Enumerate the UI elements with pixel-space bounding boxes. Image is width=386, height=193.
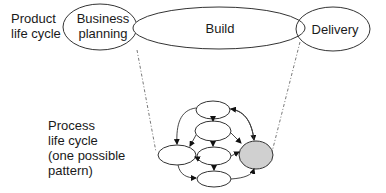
phase-label-line: Delivery [303, 22, 367, 37]
arrow-middle-to-highlighted [231, 133, 241, 143]
process-node-highlighted [239, 141, 273, 169]
delivery-label: Delivery [303, 22, 367, 37]
process-node-lower [197, 147, 231, 165]
arrow-highlighted-to-top [231, 109, 254, 140]
dashed-connector-left [137, 50, 156, 152]
process-node-middle [195, 121, 231, 141]
lifecycle-diagram: Product life cycle Business planning Bui… [0, 0, 386, 193]
arrow-bottom-to-highlighted [231, 169, 254, 179]
arrow-left-to-bottom [178, 165, 196, 178]
product-lifecycle-label: Product life cycle [11, 11, 61, 41]
phase-label-line: Build [180, 21, 260, 36]
build-label: Build [180, 21, 260, 36]
dashed-connector-right [272, 42, 300, 152]
arrow-middle-to-left [190, 135, 196, 146]
process-label-line: life cycle [48, 133, 125, 148]
arrow-lower-to-highlighted [231, 152, 239, 156]
process-label-line: (one possible [48, 148, 125, 163]
process-node-bottom [197, 171, 231, 187]
process-node-top [196, 101, 230, 119]
arrow-top-to-left [177, 108, 196, 144]
product-label-line: Product [11, 11, 61, 26]
process-node-left [158, 145, 196, 165]
process-label-line: pattern) [48, 163, 125, 178]
phase-label-line: planning [70, 26, 136, 41]
process-label-line: Process [48, 118, 125, 133]
product-label-line: life cycle [11, 26, 61, 41]
phase-label-line: Business [70, 11, 136, 26]
process-lifecycle-label: Process life cycle (one possible pattern… [48, 118, 125, 178]
business-planning-label: Business planning [70, 11, 136, 41]
